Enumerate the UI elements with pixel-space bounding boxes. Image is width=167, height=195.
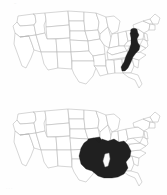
state-co — [56, 38, 71, 52]
state-fl-b — [123, 171, 142, 186]
state-wa-b — [17, 112, 36, 124]
map-panel-appalachian — [0, 0, 167, 97]
state-nd — [68, 11, 84, 21]
state-wa — [17, 14, 36, 26]
us-map-bottom-svg — [0, 98, 167, 195]
map-panel-mississippi-valley — [0, 98, 167, 195]
two-panel-map-figure: ~ — [0, 0, 167, 195]
state-mt-b — [45, 109, 69, 125]
state-ks — [70, 40, 89, 52]
state-wy — [46, 25, 70, 39]
state-wy-b — [46, 123, 70, 137]
shaded-node-top — [131, 28, 138, 34]
state-tx — [72, 61, 96, 84]
state-ma-ct-ri-b — [149, 122, 155, 128]
state-ma-ct-ri — [149, 24, 155, 30]
state-nm-b — [57, 150, 72, 167]
state-az — [41, 52, 58, 70]
state-sd — [69, 21, 85, 31]
us-map-top-svg — [0, 0, 167, 97]
state-ar — [93, 54, 106, 66]
state-co-b — [56, 136, 71, 150]
state-la — [94, 66, 108, 76]
state-mt — [45, 11, 69, 27]
state-sd-b — [69, 119, 85, 129]
state-nm — [57, 52, 72, 69]
state-az-b — [41, 150, 58, 168]
state-nd-b — [68, 109, 84, 119]
state-fl — [123, 73, 142, 88]
state-ms — [106, 60, 115, 74]
scan-artifact-bottom: · · · — [6, 186, 12, 191]
